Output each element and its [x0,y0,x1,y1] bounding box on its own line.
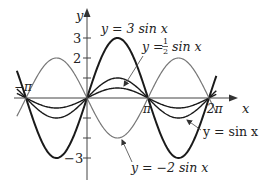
y-axis-label: y [75,8,84,23]
annotation-halfsinx-leader [124,56,143,86]
y-axis-arrow-icon [84,8,91,17]
annotation-neg2sinx-leader [122,140,132,162]
y-tick-label-neg3: −3 [64,151,83,166]
svg-text:y =: y = [141,39,164,54]
x-tick-label-negpi: −π [14,80,33,94]
annotation-3sinx: y = 3 sin x [100,21,168,36]
y-tick-label-3: 3 [73,31,81,46]
x-axis-label: x [242,101,250,116]
annotation-halfsinx: y = 1 2 sin x [141,37,202,56]
x-tick-label-pi: π [142,102,152,116]
svg-text:sin x: sin x [172,39,202,54]
x-axis-arrow-icon [229,95,238,102]
svg-text:1: 1 [163,37,168,46]
svg-text:2: 2 [163,47,168,56]
y-tick-label-2: 2 [73,51,81,66]
annotation-neg2sinx: y = −2 sin x [130,160,208,175]
annotation-sinx: y = sin x [202,124,258,139]
x-tick-label-2pi: 2π [206,102,224,116]
sine-amplitude-chart: y x 3 2 −3 −π π 2π y = 3 sin x y = 1 2 s… [0,0,259,188]
